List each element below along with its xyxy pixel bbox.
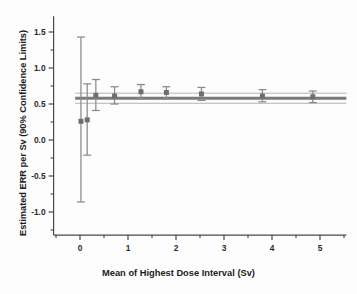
y-tick-label: 1.5 — [34, 27, 46, 37]
data-point-group — [77, 37, 85, 202]
data-point-marker — [138, 89, 143, 94]
data-point-marker — [93, 93, 98, 98]
data-point-marker — [112, 94, 117, 99]
y-axis-title: Estimated ERR per Sv (90% Confidence Lim… — [18, 18, 28, 248]
data-point-marker — [199, 91, 204, 96]
data-point-marker — [164, 90, 169, 95]
data-point-group — [83, 84, 91, 155]
x-tick-label: 5 — [318, 243, 323, 253]
data-point-marker — [310, 94, 315, 99]
y-tick-label: 0.0 — [34, 135, 46, 145]
y-tick-label: -0.5 — [31, 171, 46, 181]
x-tick-label: 4 — [270, 243, 275, 253]
data-point-marker — [260, 94, 265, 99]
data-point-group — [258, 90, 266, 102]
axis-layer — [49, 16, 347, 240]
data-point-marker — [85, 117, 90, 122]
x-tick-label: 3 — [222, 243, 227, 253]
data-series-layer — [77, 37, 317, 202]
y-tick-label: -1.0 — [31, 207, 46, 217]
x-tick-label: 0 — [78, 243, 83, 253]
chart-plot-area: 1.51.00.50.0-0.5-1.0012345 — [0, 0, 357, 294]
tick-label-layer: 1.51.00.50.0-0.5-1.0012345 — [31, 27, 323, 253]
x-tick-label: 1 — [126, 243, 131, 253]
x-tick-label: 2 — [174, 243, 179, 253]
y-tick-label: 0.5 — [34, 99, 46, 109]
data-point-group — [92, 80, 100, 111]
x-axis-title: Mean of Highest Dose Interval (Sv) — [0, 268, 357, 278]
y-tick-label: 1.0 — [34, 63, 46, 73]
figure: 1.51.00.50.0-0.5-1.0012345 Estimated ERR… — [0, 0, 357, 294]
data-point-marker — [78, 119, 83, 124]
data-point-group — [111, 87, 119, 104]
